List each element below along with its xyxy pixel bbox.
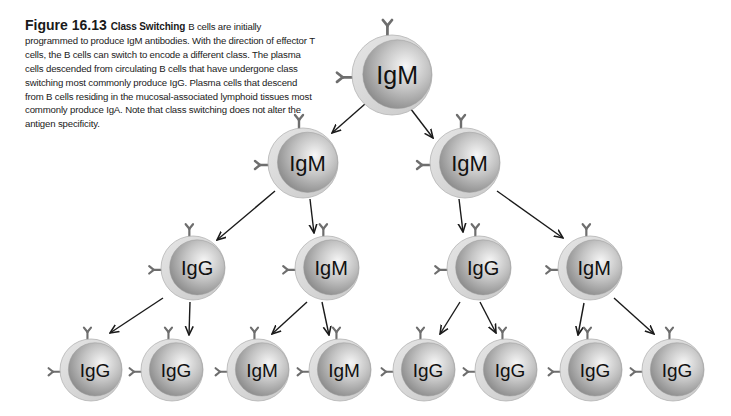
b-cell-igg: IgG xyxy=(149,224,225,300)
arrow-c3-to-c8 xyxy=(189,302,190,335)
antibody-top-icon xyxy=(320,224,327,237)
b-cell-igg: IgG xyxy=(435,224,511,300)
antibody-left-icon xyxy=(337,73,353,82)
antibody-top-icon xyxy=(499,328,506,340)
antibody-top-icon xyxy=(417,328,424,340)
arrow-c6-to-c14 xyxy=(614,298,654,334)
antibody-top-icon xyxy=(84,328,91,340)
b-cell-igg: IgG xyxy=(382,328,455,401)
antibody-left-icon xyxy=(130,368,142,375)
arrow-c1-to-c3 xyxy=(217,191,275,240)
b-cell-igg: IgG xyxy=(49,328,122,401)
b-cell-igg: IgG xyxy=(549,328,622,401)
antibody-class-label: IgG xyxy=(161,360,192,381)
antibody-top-icon xyxy=(472,224,479,237)
arrow-c2-to-c5 xyxy=(459,199,463,232)
antibody-top-icon xyxy=(583,224,590,237)
antibody-left-icon xyxy=(216,368,228,375)
cell-group: IgMIgMIgMIgGIgMIgGIgMIgGIgGIgMIgMIgGIgGI… xyxy=(49,20,704,401)
antibody-class-label: IgM xyxy=(246,360,278,381)
antibody-left-icon xyxy=(435,266,448,273)
antibody-top-icon xyxy=(457,115,465,129)
arrow-c4-to-c10 xyxy=(322,302,329,335)
antibody-left-icon xyxy=(255,161,269,169)
antibody-class-label: IgM xyxy=(314,257,347,279)
arrow-c5-to-c11 xyxy=(440,302,460,334)
b-cell-igg: IgG xyxy=(130,328,203,401)
b-cell-igm: IgM xyxy=(417,115,500,198)
antibody-top-icon xyxy=(165,328,172,340)
antibody-class-label: IgM xyxy=(451,151,488,176)
arrow-c5-to-c12 xyxy=(480,302,496,333)
b-cell-igm: IgM xyxy=(283,224,359,300)
antibody-class-label: IgG xyxy=(495,360,526,381)
b-cell-igg: IgG xyxy=(464,328,537,401)
arrow-c1-to-c4 xyxy=(310,199,314,233)
b-cell-igm: IgM xyxy=(298,328,371,401)
antibody-class-label: IgM xyxy=(328,360,360,381)
antibody-left-icon xyxy=(546,266,559,273)
antibody-top-icon xyxy=(383,20,392,36)
antibody-top-icon xyxy=(295,115,303,129)
antibody-top-icon xyxy=(333,328,340,340)
b-cell-igg: IgG xyxy=(631,328,704,401)
antibody-left-icon xyxy=(382,368,394,375)
b-cell-igm: IgM xyxy=(546,224,622,300)
antibody-left-icon xyxy=(298,368,310,375)
antibody-class-label: IgM xyxy=(376,61,418,89)
antibody-left-icon xyxy=(417,161,431,169)
antibody-class-label: IgG xyxy=(662,360,693,381)
arrow-c6-to-c13 xyxy=(578,303,584,335)
antibody-top-icon xyxy=(666,328,673,340)
antibody-class-label: IgG xyxy=(580,360,611,381)
antibody-left-icon xyxy=(464,368,476,375)
arrow-c3-to-c7 xyxy=(110,298,163,333)
antibody-left-icon xyxy=(49,368,61,375)
antibody-left-icon xyxy=(549,368,561,375)
antibody-class-label: IgG xyxy=(181,257,213,279)
antibody-left-icon xyxy=(283,266,296,273)
b-cell-igm: IgM xyxy=(255,115,338,198)
antibody-top-icon xyxy=(584,328,591,340)
arrow-c0-to-c1 xyxy=(332,104,365,133)
antibody-class-label: IgG xyxy=(413,360,444,381)
b-cell-igm: IgM xyxy=(216,328,289,401)
arrow-c4-to-c9 xyxy=(272,302,307,334)
antibody-top-icon xyxy=(251,328,258,340)
antibody-left-icon xyxy=(149,266,162,273)
antibody-left-icon xyxy=(631,368,643,375)
class-switching-diagram: IgMIgMIgMIgGIgMIgGIgMIgGIgGIgMIgMIgGIgGI… xyxy=(0,0,731,416)
arrow-c2-to-c6 xyxy=(497,191,563,238)
antibody-top-icon xyxy=(186,224,193,237)
b-cell-igm: IgM xyxy=(337,20,432,115)
antibody-class-label: IgG xyxy=(467,257,499,279)
antibody-class-label: IgG xyxy=(80,360,111,381)
antibody-class-label: IgM xyxy=(289,151,326,176)
antibody-class-label: IgM xyxy=(577,257,610,279)
